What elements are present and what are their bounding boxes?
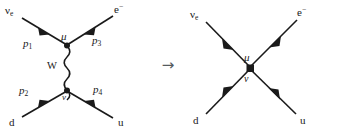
label-outgoing-electron: e− (114, 3, 123, 15)
label-w-boson: W (47, 61, 57, 72)
vertex-contact-square (247, 65, 255, 73)
label-vertex-lower-nu: ν (62, 93, 66, 102)
label-momentum-p4: p4 (93, 84, 102, 97)
arrowhead-incoming-neutrino (38, 28, 50, 36)
contact-interaction-diagram-lines (178, 0, 338, 134)
label-outgoing-electron: e− (297, 6, 306, 18)
leg-incoming-down-quark (22, 91, 67, 117)
label-incoming-down-quark: d (9, 117, 15, 128)
w-exchange-diagram: νe e− d u p1 p3 p2 p4 W μ ν (0, 0, 160, 134)
label-incoming-neutrino: νe (5, 5, 13, 18)
leg-outgoing-electron (67, 16, 113, 45)
label-momentum-p1: p1 (23, 38, 32, 51)
label-incoming-neutrino: νe (190, 9, 198, 22)
feynman-diagram-figure: νe e− d u p1 p3 p2 p4 W μ ν → (0, 0, 338, 134)
label-vertex-upper-mu: μ (61, 31, 67, 42)
label-momentum-p3: p3 (92, 35, 101, 48)
label-outgoing-up-quark: u (300, 115, 306, 126)
label-outgoing-up-quark: u (118, 117, 124, 128)
w-exchange-diagram-lines (0, 0, 160, 134)
label-momentum-p2: p2 (19, 85, 28, 98)
label-incoming-down-quark: d (193, 115, 199, 126)
vertex-upper-mu (64, 43, 70, 49)
label-vertex-lower-nu: ν (244, 74, 248, 84)
arrowhead-incoming-down-quark (38, 100, 50, 108)
contact-interaction-diagram: νe e− d u μ ν (178, 0, 338, 134)
label-vertex-upper-mu: μ (244, 52, 250, 63)
arrowhead-outgoing-up-quark (84, 100, 96, 108)
